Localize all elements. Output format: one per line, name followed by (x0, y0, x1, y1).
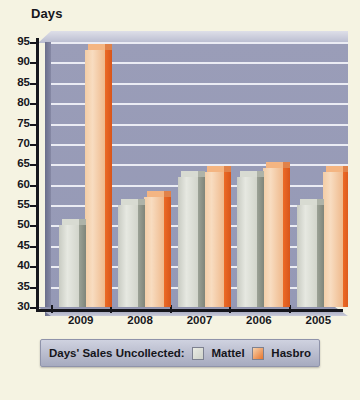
y-axis-tick (30, 103, 38, 105)
bar-side (317, 205, 324, 307)
bar-side (198, 177, 205, 307)
x-axis-label-2005: 2005 (288, 314, 348, 326)
bar-face (204, 172, 224, 307)
bar-side (105, 50, 112, 307)
y-axis-tick-label: 85 (4, 76, 30, 88)
bar-face (323, 172, 343, 307)
bar-mattel-2008 (118, 205, 138, 307)
y-axis-tick-label: 70 (4, 137, 30, 149)
chart-legend: Days' Sales Uncollected: Mattel Hasbro (40, 339, 320, 367)
hasbro-swatch-icon (252, 347, 265, 360)
y-axis-tick (30, 205, 38, 207)
x-axis-label-2007: 2007 (170, 314, 230, 326)
y-axis-title: Days (31, 6, 62, 21)
x-axis-label-2009: 2009 (51, 314, 111, 326)
y-axis-tick-label: 55 (4, 198, 30, 210)
bar-hasbro-2009 (85, 50, 105, 307)
bar-face (237, 177, 257, 307)
bar-face (178, 177, 198, 307)
bar-hasbro-2005 (323, 172, 343, 307)
y-axis-tick-label: 65 (4, 157, 30, 169)
y-axis-tick-label: 95 (4, 35, 30, 47)
y-axis-line (36, 38, 39, 312)
bar-hasbro-2006 (263, 168, 283, 307)
bar-side (283, 168, 290, 307)
x-axis-line (38, 309, 343, 312)
bar-face (144, 197, 164, 307)
bar-face (263, 168, 283, 307)
y-axis-tick (30, 164, 38, 166)
bar-face (297, 205, 317, 307)
bar-mattel-2009 (59, 225, 79, 307)
y-axis-tick (30, 144, 38, 146)
y-axis-tick-label: 80 (4, 96, 30, 108)
bar-side (164, 197, 171, 307)
y-axis-tick (30, 62, 38, 64)
y-axis-tick-label: 60 (4, 178, 30, 190)
y-axis-tick (30, 225, 38, 227)
y-axis-tick-label: 40 (4, 259, 30, 271)
bar-side (138, 205, 145, 307)
bar-face (85, 50, 105, 307)
legend-title: Days' Sales Uncollected: (49, 347, 185, 359)
plot-canvas (51, 42, 348, 307)
y-axis-tick (30, 83, 38, 85)
y-axis-tick (30, 287, 38, 289)
y-axis-tick-label: 30 (4, 300, 30, 312)
bar-hasbro-2007 (204, 172, 224, 307)
bar-mattel-2005 (297, 205, 317, 307)
y-axis-tick (30, 246, 38, 248)
plot-area (38, 31, 348, 316)
y-axis-labels: 3035404550556065707580859095 (0, 0, 30, 400)
mattel-swatch-icon (192, 347, 205, 360)
bar-face (118, 205, 138, 307)
bar-side (343, 172, 348, 307)
bar-side (79, 225, 86, 307)
x-axis-label-2008: 2008 (110, 314, 170, 326)
legend-label-hasbro: Hasbro (271, 347, 311, 359)
bar-side (257, 177, 264, 307)
y-axis-tick (30, 124, 38, 126)
y-axis-tick-label: 35 (4, 280, 30, 292)
y-axis-tick-label: 90 (4, 55, 30, 67)
x-axis-tick (51, 305, 53, 313)
y-axis-tick-label: 75 (4, 117, 30, 129)
y-axis-tick-label: 50 (4, 218, 30, 230)
bar-face (59, 225, 79, 307)
days-sales-uncollected-chart: Days 3035404550556065707580859095 200920… (0, 0, 360, 400)
x-axis-label-2006: 2006 (229, 314, 289, 326)
bar-mattel-2007 (178, 177, 198, 307)
y-axis-tick (30, 307, 38, 309)
y-axis-tick (30, 42, 38, 44)
y-axis-tick (30, 185, 38, 187)
bar-side (224, 172, 231, 307)
y-axis-tick-label: 45 (4, 239, 30, 251)
legend-label-mattel: Mattel (211, 347, 244, 359)
y-axis-tick (30, 266, 38, 268)
bar-hasbro-2008 (144, 197, 164, 307)
bar-mattel-2006 (237, 177, 257, 307)
